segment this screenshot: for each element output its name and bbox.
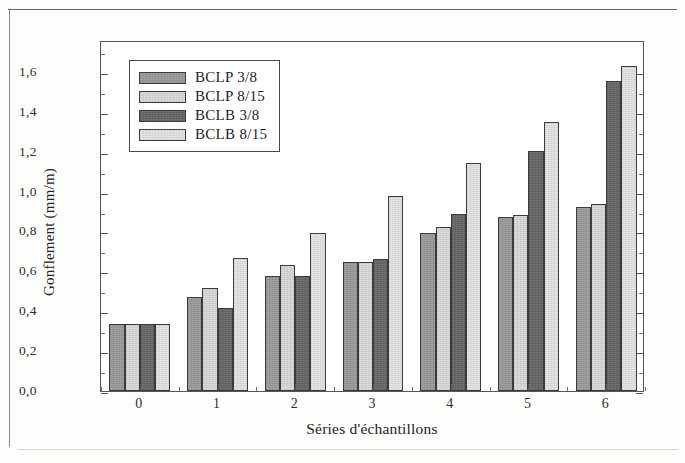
x-axis-tick bbox=[218, 384, 219, 391]
x-axis-label: 3 bbox=[369, 396, 376, 412]
y-axis-tick bbox=[101, 353, 108, 354]
y-axis-minor-tick bbox=[101, 373, 105, 374]
x-axis-minor-tick bbox=[645, 387, 646, 391]
y-axis-minor-tick-right bbox=[639, 293, 643, 294]
legend-label: BCLB 3/8 bbox=[195, 107, 260, 124]
y-axis-tick-right bbox=[636, 273, 643, 274]
bar bbox=[310, 233, 325, 391]
x-axis-minor-tick bbox=[567, 387, 568, 391]
bar bbox=[202, 288, 217, 391]
bar bbox=[621, 66, 636, 391]
x-axis-label: 4 bbox=[446, 396, 453, 412]
y-axis-tick bbox=[101, 154, 108, 155]
y-axis-label: 0,2 bbox=[19, 343, 37, 359]
x-axis-minor-tick bbox=[179, 387, 180, 391]
bar-group bbox=[343, 42, 404, 391]
legend-item: BCLB 8/15 bbox=[139, 125, 267, 144]
y-axis-tick-right bbox=[636, 114, 643, 115]
legend-swatch bbox=[139, 110, 186, 122]
y-axis-tick bbox=[101, 313, 108, 314]
x-axis-minor-tick bbox=[334, 387, 335, 391]
legend-label: BCLB 8/15 bbox=[195, 126, 267, 143]
page-border-top bbox=[8, 9, 677, 10]
y-axis-label: 1,6 bbox=[19, 64, 37, 80]
legend-item: BCLP 8/15 bbox=[139, 87, 267, 106]
bar bbox=[513, 215, 528, 391]
x-axis-tick bbox=[295, 384, 296, 391]
x-axis-title: Séries d'échantillons bbox=[100, 420, 644, 438]
bar bbox=[451, 214, 466, 391]
x-axis-tick bbox=[373, 384, 374, 391]
bar-group bbox=[498, 42, 559, 391]
y-axis-minor-tick-right bbox=[639, 134, 643, 135]
legend-label: BCLP 3/8 bbox=[195, 69, 257, 86]
chart-legend: BCLP 3/8BCLP 8/15BCLB 3/8BCLB 8/15 bbox=[129, 60, 280, 152]
bar bbox=[576, 207, 591, 391]
y-axis-minor-tick bbox=[101, 214, 105, 215]
x-axis-label: 5 bbox=[524, 396, 531, 412]
bar bbox=[358, 262, 373, 391]
x-axis-minor-tick bbox=[101, 387, 102, 391]
y-axis-minor-tick bbox=[101, 134, 105, 135]
bar bbox=[233, 258, 248, 391]
legend-swatch bbox=[139, 129, 186, 141]
y-axis-title: Gonflement (mm/m) bbox=[41, 168, 58, 296]
bar-group bbox=[576, 42, 637, 391]
y-axis-label: 0,8 bbox=[19, 223, 37, 239]
legend-swatch bbox=[139, 91, 186, 103]
bar bbox=[544, 122, 559, 391]
y-axis-minor-tick-right bbox=[639, 94, 643, 95]
x-axis-label: 1 bbox=[213, 396, 220, 412]
y-axis-tick bbox=[101, 74, 108, 75]
y-axis-label: 1,0 bbox=[19, 184, 37, 200]
bar bbox=[295, 276, 310, 391]
bar bbox=[420, 233, 435, 391]
y-axis-tick bbox=[101, 393, 108, 394]
y-axis-tick-right bbox=[636, 353, 643, 354]
legend-item: BCLB 3/8 bbox=[139, 106, 267, 125]
y-axis-label: 0,0 bbox=[19, 383, 37, 399]
figure-container: Gonflement (mm/m) BCLP 3/8BCLP 8/15BCLB … bbox=[0, 0, 685, 463]
y-axis-tick bbox=[101, 273, 108, 274]
x-axis-minor-tick bbox=[256, 387, 257, 391]
bar bbox=[436, 227, 451, 391]
y-axis-label: 0,6 bbox=[19, 263, 37, 279]
y-axis-label: 1,4 bbox=[19, 104, 37, 120]
x-axis-tick bbox=[140, 384, 141, 391]
bar bbox=[606, 81, 621, 391]
y-axis-tick bbox=[101, 194, 108, 195]
y-axis-label: 1,2 bbox=[19, 144, 37, 160]
y-axis-tick-right bbox=[636, 154, 643, 155]
y-axis-minor-tick-right bbox=[639, 214, 643, 215]
bar bbox=[528, 151, 543, 391]
x-axis-tick bbox=[528, 384, 529, 391]
y-axis-minor-tick bbox=[101, 253, 105, 254]
bar bbox=[125, 324, 140, 391]
bar bbox=[373, 259, 388, 391]
bar bbox=[155, 324, 170, 391]
bar bbox=[265, 276, 280, 391]
x-axis-label: 2 bbox=[291, 396, 298, 412]
bar-group bbox=[420, 42, 481, 391]
y-axis-minor-tick-right bbox=[639, 333, 643, 334]
y-axis-tick bbox=[101, 233, 108, 234]
x-axis-minor-tick bbox=[490, 387, 491, 391]
y-axis-minor-tick bbox=[101, 94, 105, 95]
y-axis-minor-tick bbox=[101, 54, 105, 55]
bar bbox=[109, 324, 124, 391]
y-axis-minor-tick bbox=[101, 293, 105, 294]
bar bbox=[591, 204, 606, 391]
x-axis-tick bbox=[451, 384, 452, 391]
x-axis-minor-tick bbox=[412, 387, 413, 391]
x-axis-tick bbox=[606, 384, 607, 391]
bar bbox=[343, 262, 358, 391]
y-axis-minor-tick bbox=[101, 333, 105, 334]
legend-swatch bbox=[139, 72, 186, 84]
page-border-left bbox=[9, 9, 10, 447]
y-axis-tick-right bbox=[636, 313, 643, 314]
x-axis-label: 6 bbox=[602, 396, 609, 412]
legend-label: BCLP 8/15 bbox=[195, 88, 265, 105]
y-axis-tick-right bbox=[636, 393, 643, 394]
y-axis-tick-right bbox=[636, 194, 643, 195]
y-axis-tick bbox=[101, 114, 108, 115]
